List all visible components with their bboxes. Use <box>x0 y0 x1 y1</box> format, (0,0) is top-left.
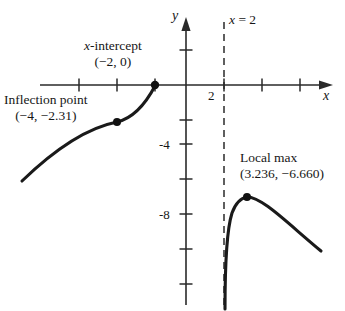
point-x-intercept <box>151 81 159 89</box>
x-axis-label: x <box>323 88 329 105</box>
curve-right-branch <box>225 197 321 309</box>
annotation-x-intercept-title: x-intercept <box>84 38 142 53</box>
point-inflection <box>113 118 121 126</box>
asymptote-label: x = 2 <box>229 12 256 28</box>
annotation-x-intercept: x-intercept (−2, 0) <box>84 38 142 70</box>
annotation-x-intercept-coords: (−2, 0) <box>84 54 142 70</box>
point-local-max <box>243 193 251 201</box>
annotation-local-max: Local max (3.236, −6.660) <box>240 150 324 182</box>
annotation-local-max-title: Local max <box>240 150 297 165</box>
y-axis <box>180 17 193 305</box>
annotation-x-intercept-title-rest: -intercept <box>90 38 142 53</box>
annotation-local-max-coords: (3.236, −6.660) <box>240 166 324 182</box>
function-graph-figure: y x 2 -4 -8 x = 2 x-intercept (−2, 0) In… <box>0 0 345 311</box>
y-tick-label-neg4: -4 <box>159 137 170 152</box>
annotation-inflection-point: Inflection point (−4, −2.31) <box>4 92 88 124</box>
x-tick-label-2: 2 <box>208 88 215 103</box>
annotation-inflection-point-title: Inflection point <box>4 92 88 107</box>
y-axis-label: y <box>172 8 178 25</box>
asymptote-label-value: = 2 <box>235 12 256 27</box>
annotation-inflection-point-coords: (−4, −2.31) <box>4 108 88 124</box>
y-tick-label-neg8: -8 <box>159 207 170 222</box>
